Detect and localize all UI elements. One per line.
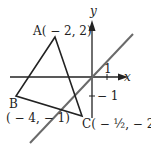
vertex-b-coords: ( − 4, − 1) <box>6 111 70 125</box>
x-axis-label: x <box>124 70 131 84</box>
vertex-b-label: B <box>9 97 18 111</box>
y-tick-label: − 1 <box>97 89 119 103</box>
coordinate-diagram: x y 1 − 1 A( − 2, 2) B ( − 4, − 1) C( − … <box>0 0 151 154</box>
vertex-c-label: C( − ½, − 2) <box>82 117 151 131</box>
y-axis-label: y <box>89 4 97 18</box>
vertex-a-label: A( − 2, 2) <box>32 24 92 38</box>
x-tick-label: 1 <box>104 62 112 76</box>
